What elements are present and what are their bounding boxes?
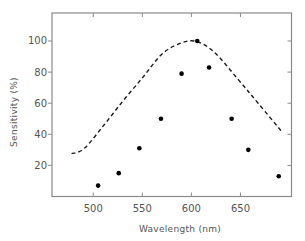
data-point bbox=[229, 116, 234, 121]
x-tick-label: 600 bbox=[182, 203, 201, 214]
data-point bbox=[207, 65, 212, 70]
x-axis: 500550600650 bbox=[84, 13, 250, 214]
y-tick-label: 80 bbox=[34, 67, 47, 78]
x-axis-label: Wavelength (nm) bbox=[139, 224, 221, 234]
y-axis-label: Sensitivity (%) bbox=[9, 77, 19, 147]
data-point bbox=[276, 174, 281, 179]
plot-frame bbox=[52, 13, 292, 197]
data-point bbox=[179, 71, 184, 76]
data-point bbox=[159, 116, 164, 121]
chart: 500550600650 20406080100 Wavelength (nm)… bbox=[0, 0, 305, 241]
x-tick-label: 500 bbox=[84, 203, 103, 214]
x-tick-label: 550 bbox=[133, 203, 152, 214]
y-tick-label: 100 bbox=[28, 35, 47, 46]
data-point bbox=[246, 148, 251, 153]
y-tick-label: 20 bbox=[34, 160, 47, 171]
data-point bbox=[195, 39, 200, 44]
data-points bbox=[96, 39, 281, 188]
y-tick-label: 40 bbox=[34, 129, 47, 140]
data-point bbox=[137, 146, 142, 151]
reference-curve-dashed bbox=[72, 41, 283, 154]
data-point bbox=[96, 183, 101, 188]
data-point bbox=[116, 171, 121, 176]
x-tick-label: 650 bbox=[231, 203, 250, 214]
y-tick-label: 60 bbox=[34, 98, 47, 109]
